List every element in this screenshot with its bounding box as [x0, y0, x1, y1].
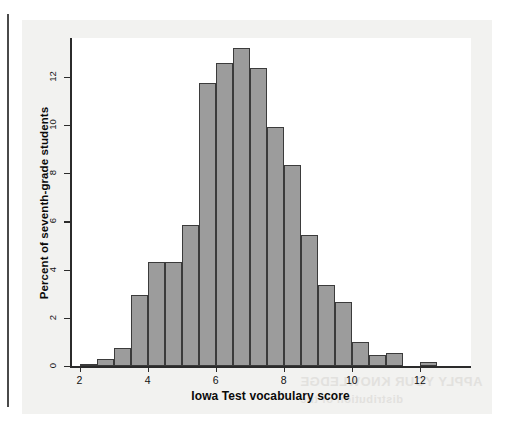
x-axis-tick-label: 12	[408, 374, 432, 386]
x-axis-tick	[216, 366, 217, 372]
y-axis-title: Percent of seventh-grade students	[36, 38, 52, 367]
histogram-bar	[165, 262, 182, 366]
y-axis-tick	[64, 318, 70, 319]
page-gutter-rule	[7, 14, 9, 407]
histogram-bar	[369, 355, 386, 366]
histogram-bar	[148, 262, 165, 366]
histogram-bar	[386, 353, 403, 366]
histogram-bar	[131, 295, 148, 366]
x-axis-tick-label: 10	[340, 374, 364, 386]
histogram-bar	[284, 165, 301, 366]
histogram-bar	[114, 348, 131, 366]
histogram-bar	[335, 302, 352, 366]
x-axis-tick	[284, 366, 285, 372]
x-axis-line	[70, 366, 471, 368]
histogram-bar	[267, 127, 284, 366]
x-axis-tick	[420, 366, 421, 372]
histogram-bar	[182, 225, 199, 366]
y-axis-tick	[64, 77, 70, 78]
x-axis-tick	[352, 366, 353, 372]
x-axis-title: Iowa Test vocabulary score	[70, 389, 471, 403]
x-axis-tick	[148, 366, 149, 372]
histogram-bar	[199, 83, 216, 366]
y-axis-title-text: Percent of seventh-grade students	[38, 106, 50, 298]
y-axis-tick	[64, 125, 70, 126]
x-axis-tick	[80, 366, 81, 372]
x-axis-tick-label: 2	[68, 374, 92, 386]
y-axis-tick	[64, 270, 70, 271]
histogram-bar	[216, 63, 233, 366]
y-axis-tick	[64, 173, 70, 174]
figure-page: APPLY YOUR KNOWLEDGE distribution of the…	[0, 0, 507, 421]
histogram-bar	[301, 235, 318, 366]
histogram-bar	[352, 342, 369, 366]
x-axis-tick-label: 8	[272, 374, 296, 386]
histogram-bar	[233, 48, 250, 366]
y-axis-tick	[64, 366, 70, 367]
histogram-bar	[318, 285, 335, 366]
histogram-bar	[250, 68, 267, 366]
y-axis-tick	[64, 221, 70, 222]
histogram-bar	[97, 359, 114, 366]
ghost-text-apply-your-knowledge: APPLY YOUR KNOWLEDGE	[300, 374, 482, 389]
x-axis-tick-label: 6	[204, 374, 228, 386]
x-axis-tick-label: 4	[136, 374, 160, 386]
y-axis-line	[70, 38, 72, 367]
histogram-plot-area	[71, 38, 471, 366]
